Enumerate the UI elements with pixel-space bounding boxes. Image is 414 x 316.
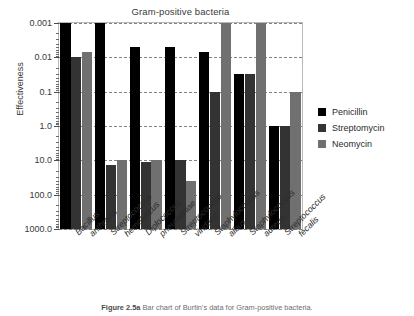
bar-group: [59, 23, 94, 229]
y-axis-tick-label: 0.1: [39, 87, 52, 97]
legend-item[interactable]: Penicillin: [318, 104, 385, 120]
y-axis-tick-label: 0.001: [29, 18, 52, 28]
bar[interactable]: [60, 23, 70, 229]
legend-label: Neomycin: [332, 139, 372, 149]
bar[interactable]: [71, 57, 81, 229]
figure-caption-label: Figure 2.5a: [101, 303, 140, 312]
x-axis-category-labels: BacillusanthracisStreptococcushemolyticu…: [58, 230, 303, 296]
chart-title: Gram-positive bacteria: [58, 6, 303, 17]
legend-swatch-icon: [318, 108, 326, 116]
figure-caption: Figure 2.5a Bar chart of Burtin's data f…: [0, 303, 414, 312]
y-axis-tick-label: 0.01: [34, 52, 52, 62]
legend-item[interactable]: Neomycin: [318, 136, 385, 152]
chart-legend: PenicillinStreptomycinNeomycin: [318, 104, 385, 152]
y-axis-tick-label: 1.0: [39, 121, 52, 131]
y-axis-label: Effectiveness: [15, 29, 25, 149]
legend-swatch-icon: [318, 124, 326, 132]
legend-item[interactable]: Streptomycin: [318, 120, 385, 136]
legend-label: Penicillin: [332, 107, 368, 117]
y-axis-tick-label: 1000.0: [24, 224, 52, 234]
figure-root: Gram-positive bacteria Effectiveness 0.0…: [0, 0, 414, 316]
figure-caption-text: Bar chart of Burtin's data for Gram-posi…: [142, 303, 312, 312]
y-axis-tick-label: 10.0: [34, 155, 52, 165]
bar[interactable]: [82, 52, 92, 229]
legend-label: Streptomycin: [332, 123, 385, 133]
legend-swatch-icon: [318, 140, 326, 148]
y-axis-tick-label: 100.0: [29, 190, 52, 200]
